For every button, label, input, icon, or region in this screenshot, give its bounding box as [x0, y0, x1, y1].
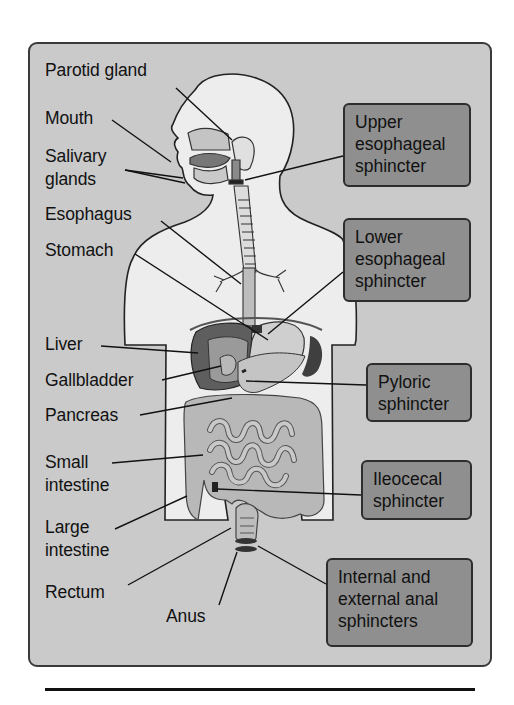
- box-anal-sphincters: Internal and external anal sphincters: [326, 558, 473, 647]
- label-small-intestine-line2: intestine: [45, 475, 109, 496]
- label-large-intestine-line2: intestine: [45, 540, 109, 561]
- box-line: sphincters: [338, 610, 471, 632]
- box-line: sphincter: [355, 270, 469, 292]
- box-line: sphincter: [355, 155, 469, 177]
- box-line: sphincter: [378, 393, 470, 415]
- label-salivary-glands-line2: glands: [45, 169, 96, 190]
- label-mouth: Mouth: [45, 108, 93, 129]
- label-small-intestine-line1: Small: [45, 452, 88, 473]
- box-line: Pyloric: [378, 371, 470, 393]
- label-esophagus: Esophagus: [45, 204, 132, 225]
- box-line: external anal: [338, 588, 471, 610]
- box-line: Internal and: [338, 566, 471, 588]
- box-lower-esophageal-sphincter: Lower esophageal sphincter: [343, 218, 471, 302]
- label-salivary-glands-line1: Salivary: [45, 146, 106, 167]
- box-line: esophageal: [355, 248, 469, 270]
- label-large-intestine-line1: Large: [45, 517, 89, 538]
- label-rectum: Rectum: [45, 582, 105, 603]
- label-stomach: Stomach: [45, 240, 113, 261]
- anal-sphincters: [235, 538, 257, 544]
- box-line: Lower: [355, 226, 469, 248]
- label-gallbladder: Gallbladder: [45, 370, 133, 391]
- box-ileocecal-sphincter: Ileocecal sphincter: [361, 460, 472, 520]
- box-pyloric-sphincter: Pyloric sphincter: [366, 363, 472, 422]
- box-line: esophageal: [355, 133, 469, 155]
- label-pancreas: Pancreas: [45, 405, 118, 426]
- box-line: Ileocecal: [373, 468, 470, 490]
- box-line: Upper: [355, 111, 469, 133]
- label-parotid-gland: Parotid gland: [45, 60, 147, 81]
- box-line: sphincter: [373, 490, 470, 512]
- rectum: [236, 504, 258, 543]
- box-upper-esophageal-sphincter: Upper esophageal sphincter: [343, 103, 471, 187]
- bottom-divider: [45, 688, 475, 691]
- label-anus: Anus: [166, 606, 206, 627]
- label-liver: Liver: [45, 334, 82, 355]
